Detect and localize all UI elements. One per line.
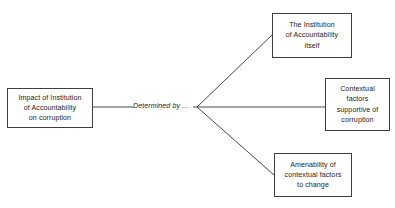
node-institution-itself-label: The Institution of Accountability itself <box>286 20 338 50</box>
connector-vertex-to-amenability <box>197 107 274 175</box>
node-impact-of-institution-label: Impact of Institution of Accountability … <box>18 93 81 123</box>
node-amenability: Amenability of contextual factors to cha… <box>274 153 352 197</box>
node-contextual-factors-label: Contextual factors supportive of corrupt… <box>337 84 379 124</box>
node-impact-of-institution: Impact of Institution of Accountability … <box>7 88 93 128</box>
connector-vertex-to-institution <box>197 35 272 107</box>
node-amenability-label: Amenability of contextual factors to cha… <box>285 160 342 190</box>
edge-label-determined-by: Determined by … <box>133 100 193 112</box>
node-institution-itself: The Institution of Accountability itself <box>272 13 352 58</box>
node-contextual-factors: Contextual factors supportive of corrupt… <box>325 78 390 131</box>
diagram-canvas: Impact of Institution of Accountability … <box>0 0 395 208</box>
edge-label-determined-by-text: Determined by … <box>133 102 189 110</box>
